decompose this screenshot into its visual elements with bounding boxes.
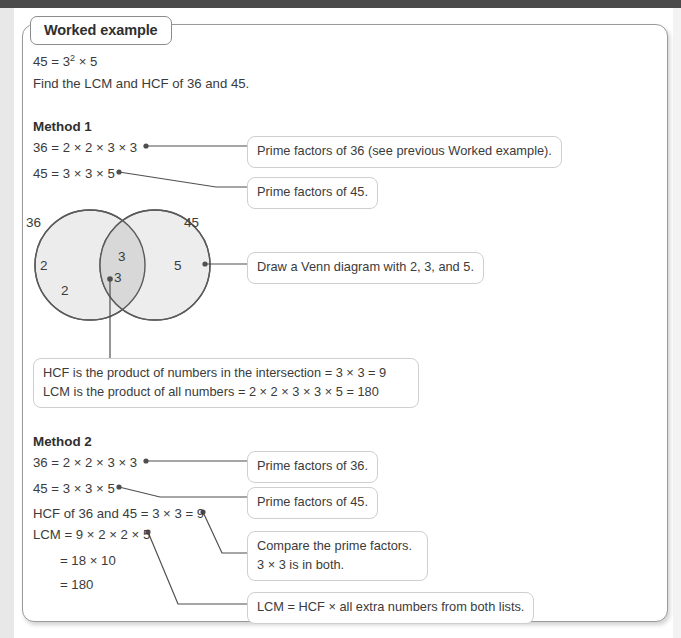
method2-line-lcm: LCM = 9 × 2 × 2 × 5 — [33, 527, 150, 543]
worked-example-content: 45 = 32 × 5 Find the LCM and HCF of 36 a… — [0, 0, 681, 638]
method2-line-hcf: HCF of 36 and 45 = 3 × 3 = 9 — [33, 506, 204, 522]
result-lcm-line: LCM is the product of all numbers = 2 × … — [43, 383, 409, 402]
callout-method1-prime-factors-36: Prime factors of 36 (see previous Worked… — [247, 136, 562, 168]
venn-label-right-45: 45 — [184, 215, 199, 230]
compare-line-1: Compare the prime factors. — [257, 537, 418, 556]
venn-label-left-36: 36 — [26, 215, 41, 230]
result-hcf-line: HCF is the product of numbers in the int… — [43, 364, 409, 383]
method2-line-36: 36 = 2 × 2 × 3 × 3 — [33, 455, 137, 471]
intro-instruction: Find the LCM and HCF of 36 and 45. — [33, 76, 249, 92]
method2-line-lcm-step-3: = 180 — [60, 577, 93, 593]
callout-compare-prime-factors: Compare the prime factors. 3 × 3 is in b… — [247, 531, 428, 581]
method1-line-36: 36 = 2 × 2 × 3 × 3 — [33, 140, 137, 156]
callout-method1-results: HCF is the product of numbers in the int… — [33, 358, 419, 408]
method2-line-lcm-step-2: = 18 × 10 — [60, 553, 116, 569]
venn-value-intersection-3a: 3 — [118, 249, 126, 264]
compare-line-2: 3 × 3 is in both. — [257, 556, 418, 575]
venn-value-left-2a: 2 — [40, 258, 48, 273]
venn-value-right-5: 5 — [174, 258, 182, 273]
callout-draw-venn-diagram: Draw a Venn diagram with 2, 3, and 5. — [247, 252, 484, 284]
venn-value-intersection-3b: 3 — [114, 270, 122, 285]
callout-method2-prime-factors-36: Prime factors of 36. — [247, 451, 378, 483]
worked-example-tab-label: Worked example — [30, 16, 172, 45]
intro-equation-prefix: 45 = 3 — [33, 54, 70, 69]
intro-equation: 45 = 32 × 5 — [33, 54, 97, 70]
method1-heading: Method 1 — [33, 119, 92, 135]
venn-value-left-2b: 2 — [61, 283, 69, 298]
intro-equation-suffix: × 5 — [75, 54, 97, 69]
method2-heading: Method 2 — [33, 434, 92, 450]
method2-line-45: 45 = 3 × 3 × 5 — [33, 481, 115, 497]
method1-line-45: 45 = 3 × 3 × 5 — [33, 166, 115, 182]
callout-lcm-rule: LCM = HCF × all extra numbers from both … — [247, 592, 534, 624]
callout-method1-prime-factors-45: Prime factors of 45. — [247, 177, 378, 209]
callout-method2-prime-factors-45: Prime factors of 45. — [247, 487, 378, 519]
